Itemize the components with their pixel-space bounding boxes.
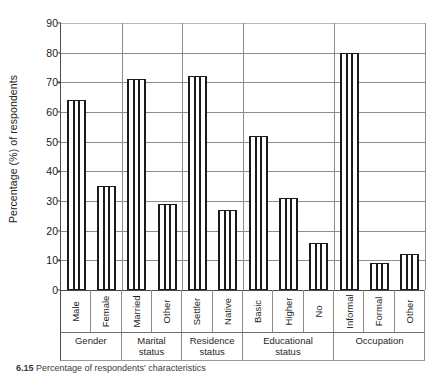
bar-basic-6 [249,136,268,290]
bar-other-3 [158,204,177,290]
category-label-text: Higher [282,297,293,325]
category-label-other-11: Other [395,290,425,332]
category-label-settler-4: Settler [182,290,212,332]
group-label-line1: Gender [75,335,107,346]
group-label-line2: status [275,346,300,357]
category-label-text: Married [131,295,142,327]
group-label-line1: Educational [263,335,313,346]
bar-series [61,23,425,290]
group-label-line1: Residence [190,335,235,346]
group-label-residence: Residencestatus [182,333,243,360]
figure-caption: 6.15 Percentage of respondents' characte… [16,363,436,373]
category-label-band: MaleFemaleMarriedOtherSettlerNativeBasic… [60,290,425,333]
category-label-text: Female [101,295,112,327]
group-label-band: GenderMaritalstatusResidencestatusEducat… [60,333,425,361]
category-label-text: Formal [374,296,385,326]
group-label-occupation: Occupation [334,333,425,360]
category-label-informal-9: Informal [334,290,364,332]
figure-caption-number: 6.15 [16,363,34,373]
y-axis-title: Percentage (%) of respondents [4,18,22,280]
bar-married-2 [127,79,146,290]
category-label-other-3: Other [152,290,182,332]
group-label-line2: status [139,346,164,357]
group-label-line1: Marital [137,335,166,346]
group-label-gender: Gender [61,333,122,360]
category-label-text: No [313,305,324,317]
category-label-text: Other [161,299,172,323]
category-label-no-8: No [304,290,334,332]
bar-formal-10 [370,263,389,290]
category-label-married-2: Married [122,290,152,332]
bar-other-11 [400,254,419,290]
figure-caption-text: Percentage of respondents' characteristi… [36,363,206,373]
group-label-educational: Educationalstatus [243,333,334,360]
plot-area: 0102030405060708090 [60,23,425,291]
bar-male-0 [67,100,86,290]
category-label-text: Other [404,299,415,323]
bar-female-1 [97,186,116,290]
category-label-text: Informal [343,294,354,328]
y-axis-title-text: Percentage (%) of respondents [7,75,19,223]
bar-no-8 [309,243,328,290]
bar-native-5 [218,210,237,290]
category-label-text: Male [70,301,81,322]
group-label-line1: Occupation [355,335,403,346]
group-label-line2: status [199,346,224,357]
category-label-higher-7: Higher [273,290,303,332]
category-label-formal-10: Formal [364,290,394,332]
category-label-basic-6: Basic [243,290,273,332]
category-label-native-5: Native [213,290,243,332]
bar-settler-4 [188,76,207,290]
group-label-marital: Maritalstatus [122,333,183,360]
bar-informal-9 [340,53,359,290]
category-label-text: Settler [191,297,202,324]
category-label-male-0: Male [61,290,91,332]
category-label-text: Native [222,298,233,325]
bar-higher-7 [279,198,298,290]
category-label-text: Basic [252,299,263,322]
category-label-female-1: Female [91,290,121,332]
